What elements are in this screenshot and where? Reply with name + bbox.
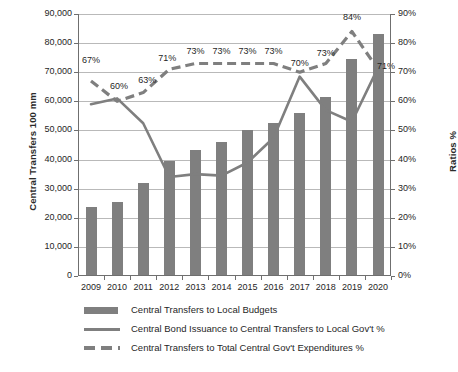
legend-item-bars: Central Transfers to Local Budgets [84, 300, 444, 319]
x-axis-tick-mark [365, 276, 366, 280]
y-axis-right-tick-label: 20% [398, 212, 438, 222]
legend-label-solid-line: Central Bond Issuance to Central Transfe… [131, 323, 385, 334]
data-label: 60% [105, 81, 133, 91]
y-axis-right-tick-mark [391, 43, 395, 44]
bar [164, 161, 175, 276]
bar [242, 130, 253, 276]
legend-label-bars: Central Transfers to Local Budgets [131, 304, 277, 315]
y-axis-left-tick-mark [74, 218, 78, 219]
bar [86, 207, 97, 276]
data-label: 73% [260, 46, 288, 56]
y-axis-left-tick-mark [74, 14, 78, 15]
gridline [78, 247, 391, 248]
legend-item-solid-line: Central Bond Issuance to Central Transfe… [84, 319, 444, 338]
y-axis-left-tick-label: 10,000 [26, 241, 72, 251]
bar [190, 150, 201, 276]
x-axis-tick-mark [287, 276, 288, 280]
y-axis-right-tick-label: 50% [398, 124, 438, 134]
x-axis-tick-mark [313, 276, 314, 280]
data-label: 63% [133, 75, 161, 85]
y-axis-right-title: Ratios % [447, 52, 458, 252]
gridline [78, 160, 391, 161]
data-label: 84% [338, 12, 366, 22]
y-axis-left-tick-mark [74, 130, 78, 131]
x-axis-tick-mark [130, 276, 131, 280]
x-axis-tick-mark [156, 276, 157, 280]
data-label: 73% [234, 46, 262, 56]
data-label: 70% [286, 58, 314, 68]
y-axis-right-tick-label: 0% [398, 270, 438, 280]
bar [346, 59, 357, 277]
gridline [78, 189, 391, 190]
y-axis-left-tick-label: 60,000 [26, 95, 72, 105]
gridline [78, 72, 391, 73]
y-axis-right-tick-mark [391, 247, 395, 248]
bar [112, 202, 123, 276]
y-axis-left-tick-label: 80,000 [26, 37, 72, 47]
legend-item-dashed-line: Central Transfers to Total Central Gov't… [84, 338, 444, 357]
y-axis-left-tick-label: 20,000 [26, 212, 72, 222]
data-label: 73% [208, 46, 236, 56]
y-axis-left-tick-mark [74, 276, 78, 277]
data-label: 67% [77, 55, 105, 65]
y-axis-right-tick-mark [391, 101, 395, 102]
y-axis-left-tick-mark [74, 43, 78, 44]
dashed-line-path [91, 32, 378, 102]
gridline [78, 43, 391, 44]
y-axis-right-tick-mark [391, 189, 395, 190]
y-axis-left-tick-label: 0 [26, 270, 72, 280]
data-label: 71% [153, 53, 181, 63]
x-axis-tick-label: 2020 [361, 282, 395, 292]
dashed-line-swatch-icon [84, 343, 122, 353]
y-axis-right-tick-label: 30% [398, 183, 438, 193]
y-axis-left-tick-mark [74, 101, 78, 102]
x-axis-tick-mark [391, 276, 392, 280]
y-axis-right-tick-mark [391, 14, 395, 15]
y-axis-left-tick-mark [74, 189, 78, 190]
y-axis-right-tick-mark [391, 72, 395, 73]
y-axis-right-tick-label: 70% [398, 66, 438, 76]
bar [216, 142, 227, 277]
y-axis-left-tick-mark [74, 160, 78, 161]
bar-swatch-icon [84, 305, 122, 315]
y-axis-left-tick-label: 50,000 [26, 124, 72, 134]
y-axis-left-tick-label: 40,000 [26, 154, 72, 164]
x-axis-tick-mark [339, 276, 340, 280]
y-axis-right-tick-label: 90% [398, 8, 438, 18]
y-axis-left-tick-mark [74, 247, 78, 248]
y-axis-left-tick-label: 90,000 [26, 8, 72, 18]
y-axis-right-line [390, 14, 391, 276]
x-axis-tick-mark [261, 276, 262, 280]
bar [320, 97, 331, 276]
legend-label-dashed-line: Central Transfers to Total Central Gov't… [131, 342, 364, 353]
y-axis-left-line [78, 14, 79, 276]
x-axis-tick-mark [235, 276, 236, 280]
bar [138, 183, 149, 276]
y-axis-right-tick-mark [391, 130, 395, 131]
x-axis-tick-mark [182, 276, 183, 280]
y-axis-right-tick-label: 80% [398, 37, 438, 47]
y-axis-right-tick-label: 60% [398, 95, 438, 105]
y-axis-right-tick-mark [391, 160, 395, 161]
data-label: 73% [181, 46, 209, 56]
solid-line-swatch-icon [84, 324, 122, 334]
gridline [78, 218, 391, 219]
gridline [78, 101, 391, 102]
y-axis-right-tick-label: 40% [398, 154, 438, 164]
chart-legend: Central Transfers to Local Budgets Centr… [84, 300, 444, 357]
x-axis-tick-mark [104, 276, 105, 280]
y-axis-left-tick-label: 30,000 [26, 183, 72, 193]
y-axis-right-tick-label: 10% [398, 241, 438, 251]
y-axis-left-tick-mark [74, 72, 78, 73]
bar [268, 123, 279, 276]
bar [294, 113, 305, 276]
plot-area: 67%60%63%71%73%73%73%73%70%73%84%71% [78, 14, 391, 276]
data-label: 73% [312, 48, 340, 58]
gridline [78, 130, 391, 131]
y-axis-right-tick-mark [391, 218, 395, 219]
data-label: 71% [372, 61, 400, 71]
y-axis-left-tick-label: 70,000 [26, 66, 72, 76]
x-axis-tick-mark [208, 276, 209, 280]
